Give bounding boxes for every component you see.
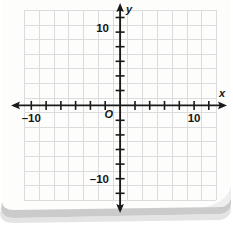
x-axis-negative-ten-label: –10	[22, 112, 41, 124]
y-axis-negative-ten-label: –10	[90, 173, 109, 185]
origin-label: O	[104, 108, 113, 120]
x-axis-label: x	[218, 87, 226, 99]
y-axis-positive-ten-label: 10	[96, 22, 109, 34]
y-axis-label: y	[125, 3, 133, 15]
coordinate-plane-figure: –10 10 10 –10 O y x	[0, 0, 233, 228]
figure-page: –10 10 10 –10 O y x	[0, 0, 233, 228]
x-axis-positive-ten-label: 10	[188, 112, 201, 124]
